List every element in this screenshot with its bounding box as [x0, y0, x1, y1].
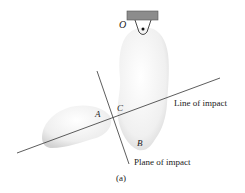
support-block [127, 11, 158, 20]
body-a-shape [42, 105, 111, 148]
label-a: A [94, 109, 101, 119]
label-plane-of-impact: Plane of impact [134, 157, 191, 167]
pin-icon [142, 28, 145, 31]
label-b: B [137, 138, 143, 148]
impact-diagram: O A C B Line of impact Plane of impact (… [0, 0, 245, 193]
body-b-shape [118, 27, 169, 150]
figure-caption: (a) [116, 173, 126, 183]
label-line-of-impact: Line of impact [174, 98, 227, 108]
label-o: O [119, 19, 126, 30]
label-c: C [117, 103, 124, 113]
line-of-impact [17, 78, 220, 153]
